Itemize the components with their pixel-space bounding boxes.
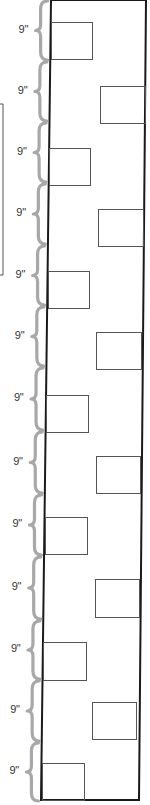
brace-8: [30, 432, 42, 493]
brace-1: [36, 1, 48, 60]
brace-5: [33, 246, 45, 305]
dimension-label: 9": [18, 84, 27, 96]
dimension-label: 9": [11, 642, 20, 654]
brace-12: [27, 681, 39, 741]
dimension-label: 9": [19, 23, 28, 35]
window-3: [50, 149, 91, 186]
brace-9: [29, 495, 41, 555]
dimension-label: 9": [16, 206, 25, 218]
dimension-label: 9": [14, 391, 23, 403]
window-5: [49, 272, 90, 309]
window-4: [99, 210, 144, 247]
window-8: [97, 457, 141, 494]
brace-11: [28, 621, 40, 679]
window-12: [93, 703, 137, 740]
window-10: [96, 580, 140, 618]
brace-6: [32, 307, 44, 366]
dimension-label: 9": [10, 703, 19, 715]
brace-2: [35, 62, 47, 121]
dimension-label: 9": [12, 580, 21, 592]
partial-frame-left: [0, 104, 3, 275]
window-7: [47, 396, 89, 433]
brace-10: [29, 557, 41, 619]
window-9: [46, 518, 88, 555]
dimension-label: 9": [12, 517, 21, 529]
brace-4: [33, 184, 45, 244]
dimension-label: 9": [15, 329, 24, 341]
brace-3: [34, 123, 46, 182]
brace-7: [31, 368, 43, 430]
window-13: [43, 764, 85, 801]
window-1: [52, 23, 93, 60]
dimension-label: 9": [17, 145, 26, 157]
dimension-label: 9": [13, 455, 22, 467]
brace-13: [26, 743, 38, 801]
window-openings: [43, 23, 146, 801]
dimension-label: 9": [16, 268, 25, 280]
window-11: [44, 643, 87, 681]
window-6: [97, 333, 142, 370]
window-2: [101, 87, 146, 124]
dimension-label: 9": [9, 764, 18, 776]
